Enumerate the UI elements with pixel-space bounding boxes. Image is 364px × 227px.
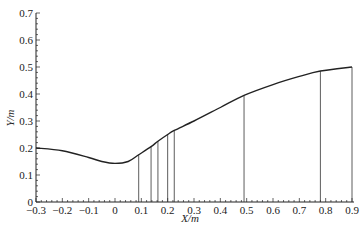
vertical-lines	[139, 67, 352, 202]
x-tick-label: 0.4	[213, 204, 227, 216]
x-tick-label: 0.5	[240, 204, 254, 216]
y-tick-label: 0.5	[19, 61, 33, 73]
x-tick-label: 0.6	[266, 204, 280, 216]
x-tick-label: −0.1	[79, 204, 99, 216]
y-tick-label: 0.3	[19, 115, 33, 127]
y-tick-label: 0.1	[19, 169, 33, 181]
y-tick-label: 0.4	[19, 88, 33, 100]
x-tick-label: 0.8	[319, 204, 333, 216]
x-tick-label: 0.7	[292, 204, 306, 216]
y-tick-label: 0	[28, 196, 34, 208]
x-axis-label: X/m	[180, 212, 199, 224]
y-axis-label: Y/m	[4, 109, 16, 126]
x-tick-label: 0.9	[345, 204, 359, 216]
x-tick-label: −0.2	[52, 204, 72, 216]
ticks: −0.3−0.2−0.100.10.20.30.40.50.60.70.80.9…	[19, 7, 359, 216]
y-tick-label: 0.2	[19, 142, 33, 154]
y-tick-label: 0.7	[19, 7, 33, 19]
x-tick-label: 0.2	[161, 204, 175, 216]
y-tick-label: 0.6	[19, 34, 33, 46]
x-tick-label: 0	[112, 204, 118, 216]
profile-curve	[36, 67, 352, 163]
chart: −0.3−0.2−0.100.10.20.30.40.50.60.70.80.9…	[0, 0, 364, 227]
axes	[36, 13, 354, 202]
x-tick-label: 0.1	[134, 204, 148, 216]
